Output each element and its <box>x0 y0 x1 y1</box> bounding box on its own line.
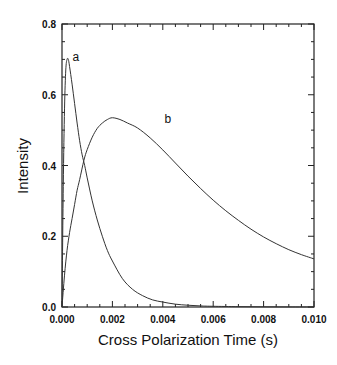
x-tick-label: 0.000 <box>49 314 74 325</box>
curve-label-b: b <box>164 112 171 126</box>
x-tick-label: 0.004 <box>150 314 175 325</box>
curve-annotations: ab <box>73 50 172 126</box>
curve-a <box>62 58 314 307</box>
x-tick-label: 0.008 <box>251 314 276 325</box>
x-axis-tick-labels: 0.0000.0020.0040.0060.0080.010 <box>49 314 326 325</box>
y-axis-tick-labels: 0.00.20.40.60.8 <box>42 19 56 313</box>
cross-polarization-chart: 0.0000.0020.0040.0060.0080.010 0.00.20.4… <box>0 0 337 365</box>
y-tick-label: 0.2 <box>42 231 56 242</box>
y-axis-title: Intensity <box>14 138 31 194</box>
plot-frame <box>62 24 314 307</box>
y-tick-label: 0.6 <box>42 90 56 101</box>
x-tick-label: 0.006 <box>201 314 226 325</box>
y-tick-label: 0.0 <box>42 302 56 313</box>
x-tick-label: 0.010 <box>301 314 326 325</box>
y-tick-label: 0.8 <box>42 19 56 30</box>
plot-border <box>62 24 314 307</box>
curve-b <box>62 118 314 307</box>
curve-label-a: a <box>73 50 80 64</box>
x-axis-title: Cross Polarization Time (s) <box>98 331 278 348</box>
y-tick-label: 0.4 <box>42 161 56 172</box>
x-tick-label: 0.002 <box>100 314 125 325</box>
axis-ticks <box>62 24 314 307</box>
data-curves <box>62 58 314 307</box>
